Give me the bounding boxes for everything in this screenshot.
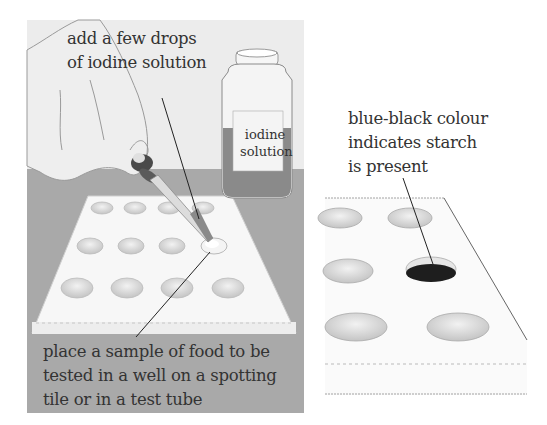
- spotting-tile-right: [318, 198, 527, 395]
- callout-add-iodine: add a few drops of iodine solution: [67, 27, 206, 75]
- positive-starch-well: [406, 264, 456, 282]
- bottle-label: iodine solution: [240, 126, 290, 160]
- spotting-tile-left: [32, 196, 296, 334]
- callout-place-sample: place a sample of food to be tested in a…: [43, 340, 277, 412]
- iodine-bottle: [222, 49, 292, 198]
- callout-starch-result: blue-black colour indicates starch is pr…: [348, 107, 488, 179]
